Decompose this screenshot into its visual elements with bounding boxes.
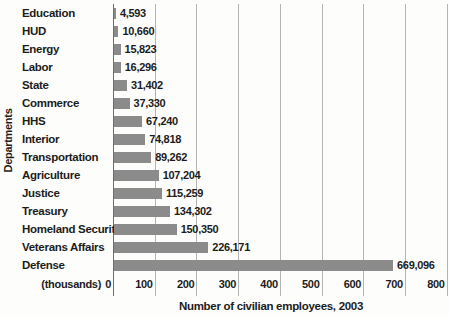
bar	[114, 206, 170, 217]
bar	[114, 62, 121, 73]
category-label: State	[22, 78, 49, 92]
x-axis-title: Number of civilian employees, 2003	[93, 300, 449, 312]
bar	[114, 152, 151, 163]
category-label: Labor	[22, 60, 52, 74]
y-axis-title: Departments	[2, 96, 15, 186]
bar	[114, 80, 127, 91]
bar	[114, 8, 116, 19]
bar	[114, 260, 393, 271]
value-label: 15,823	[125, 43, 157, 56]
category-label: Justice	[22, 186, 60, 200]
category-label: Treasury	[22, 204, 68, 218]
x-tick-label: 600	[321, 278, 361, 290]
value-label: 107,204	[163, 169, 201, 182]
category-label: Defense	[22, 258, 65, 272]
category-label: Energy	[22, 42, 59, 56]
category-label: Education	[22, 6, 75, 20]
category-label: Commerce	[22, 96, 79, 110]
value-label: 4,593	[120, 7, 146, 20]
x-tick-label: 100	[113, 278, 153, 290]
bar	[114, 26, 118, 37]
bar	[114, 116, 142, 127]
value-label: 10,660	[122, 25, 154, 38]
gridline	[447, 4, 448, 296]
value-label: 150,350	[181, 223, 219, 236]
bar	[114, 224, 177, 235]
gridline	[405, 4, 406, 296]
gridline	[280, 4, 281, 296]
value-label: 31,402	[131, 79, 163, 92]
x-tick-label: 200	[154, 278, 194, 290]
bar	[114, 98, 130, 109]
bar	[114, 44, 121, 55]
value-label: 37,330	[134, 97, 166, 110]
category-label: Transportation	[22, 150, 98, 164]
gridline	[322, 4, 323, 296]
x-tick-label: 700	[363, 278, 403, 290]
value-label: 16,296	[125, 61, 157, 74]
value-label: 134,302	[174, 205, 212, 218]
x-tick-label: 500	[280, 278, 320, 290]
category-label: Veterans Affairs	[22, 240, 104, 254]
x-tick-label: 800	[405, 278, 445, 290]
category-label: Homeland Security	[22, 222, 121, 236]
x-tick-label: 400	[238, 278, 278, 290]
bar-chart: Departments (thousands) Number of civili…	[0, 0, 449, 316]
category-label: HUD	[22, 24, 46, 38]
category-label: Interior	[22, 132, 59, 146]
value-label: 115,259	[166, 187, 203, 200]
x-tick-label: 300	[196, 278, 236, 290]
bar	[114, 188, 162, 199]
bar	[114, 134, 145, 145]
value-label: 226,171	[212, 241, 250, 254]
x-tick-label: 0	[71, 278, 111, 290]
bar	[114, 170, 159, 181]
value-label: 669,096	[397, 259, 435, 272]
value-label: 74,818	[149, 133, 181, 146]
gridline	[363, 4, 364, 296]
category-label: HHS	[22, 114, 45, 128]
bar	[114, 242, 208, 253]
value-label: 67,240	[146, 115, 178, 128]
value-label: 89,262	[155, 151, 187, 164]
category-label: Agriculture	[22, 168, 80, 182]
